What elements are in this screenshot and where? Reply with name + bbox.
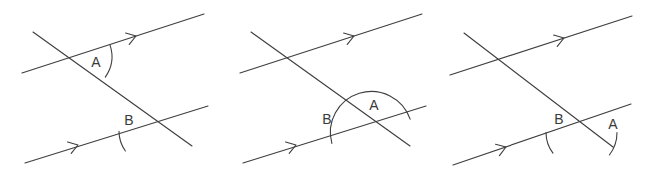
angle-label-a: A (369, 97, 379, 113)
angle-label-b: B (554, 111, 564, 127)
angle-label-a: A (608, 116, 618, 132)
transversal-line (464, 33, 613, 147)
angle-arc-b (546, 133, 553, 154)
transversal-line (33, 32, 192, 146)
angle-label-a: A (91, 54, 101, 70)
panel-3-canvas: A B (436, 0, 653, 180)
diagram-panel-1: A B (0, 0, 218, 180)
angle-arc-b (119, 131, 125, 151)
parallel-line-upper (450, 16, 632, 75)
angle-label-b: B (322, 111, 332, 127)
angle-arc-a (105, 45, 112, 77)
angle-arc-a (609, 133, 617, 156)
parallel-line-lower (25, 106, 208, 163)
parallel-line-lower (453, 104, 631, 165)
diagram-panel-2: A B (218, 0, 436, 180)
angle-label-b: B (124, 112, 134, 128)
panel-1-canvas: A B (0, 0, 218, 180)
diagram-panel-3: A B (436, 0, 653, 180)
panel-2-canvas: A B (218, 0, 436, 180)
geometry-figure: A B A B (0, 0, 653, 180)
